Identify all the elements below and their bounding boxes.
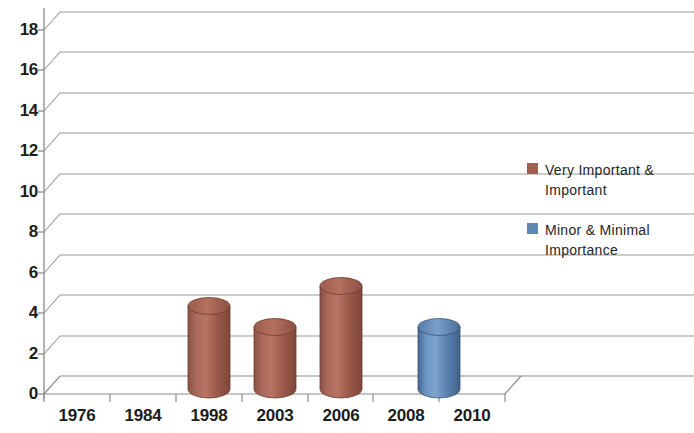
legend-item-very-important: Very Important & Important — [527, 160, 694, 201]
legend-item-label: Very Important & Important — [545, 160, 654, 201]
x-tick-label-2006: 2006 — [309, 407, 373, 424]
bar-2003 — [254, 319, 296, 399]
legend-swatch-icon — [527, 163, 538, 174]
legend-item-minor-minimal: Minor & Minimal Importance — [527, 220, 694, 261]
y-tick-label: 12 — [4, 142, 38, 159]
y-tick-label: 18 — [4, 21, 38, 38]
bar-1998 — [188, 298, 230, 399]
legend-item-label: Minor & Minimal Importance — [545, 220, 650, 261]
x-tick-label-2003: 2003 — [243, 407, 307, 424]
bar-2006 — [320, 278, 362, 399]
chart-legend: Very Important & Important Minor & Minim… — [527, 160, 694, 279]
cylinder-bar-chart: 18 16 14 12 10 8 6 4 2 0 1976 1984 1998 … — [0, 0, 694, 433]
x-axis-labels: 1976 1984 1998 2003 2006 2008 2010 — [0, 407, 694, 433]
y-tick-label: 8 — [4, 223, 38, 240]
bar-2010 — [418, 319, 460, 399]
y-tick-label: 4 — [4, 304, 38, 321]
y-tick-label: 2 — [4, 345, 38, 362]
y-tick-label: 0 — [4, 385, 38, 402]
x-tick-label-2010: 2010 — [440, 407, 504, 424]
chart-floor — [44, 376, 694, 394]
y-axis — [38, 8, 44, 399]
y-tick-label: 6 — [4, 264, 38, 281]
y-tick-label: 10 — [4, 183, 38, 200]
legend-swatch-icon — [527, 223, 538, 234]
x-tick-label-1984: 1984 — [111, 407, 175, 424]
y-axis-labels: 18 16 14 12 10 8 6 4 2 0 — [0, 0, 38, 433]
y-tick-label: 16 — [4, 61, 38, 78]
x-tick-label-1998: 1998 — [177, 407, 241, 424]
x-tick-label-1976: 1976 — [45, 407, 109, 424]
y-tick-label: 14 — [4, 102, 38, 119]
x-tick-label-2008: 2008 — [374, 407, 438, 424]
